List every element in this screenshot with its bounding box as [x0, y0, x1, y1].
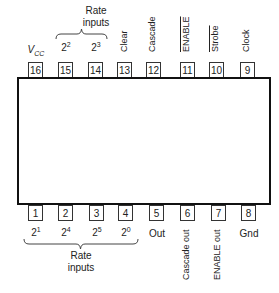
- pin9-label: Clock: [241, 29, 251, 52]
- pin-1: 1: [28, 205, 43, 221]
- pin-12: 12: [146, 62, 161, 78]
- pin-3: 3: [89, 205, 104, 221]
- pin-15: 15: [58, 62, 73, 78]
- pin-6: 6: [180, 205, 195, 221]
- top-rate-inputs-label: Rate inputs: [66, 5, 126, 29]
- pin-11: 11: [180, 62, 195, 78]
- pin10-label: Strobe: [210, 25, 220, 52]
- pin-2: 2: [58, 205, 73, 221]
- bottom-rate-inputs-label: Rate inputs: [51, 250, 111, 274]
- pin8-label: Gnd: [235, 228, 263, 240]
- ic-body: [17, 77, 271, 205]
- pin-7: 7: [211, 205, 226, 221]
- top-rate-label-line1: Rate: [66, 5, 126, 17]
- pin6-label: Cascade out: [181, 229, 191, 280]
- pin15-label: 22: [56, 42, 76, 54]
- pin-4: 4: [118, 205, 133, 221]
- pin-13: 13: [117, 62, 132, 78]
- pin7-label: ENABLE out: [212, 229, 222, 280]
- pin-5: 5: [149, 205, 164, 221]
- bottom-rate-brace: [23, 238, 139, 250]
- pin16-label: VCC: [24, 44, 48, 56]
- pin12-label: Cascade: [147, 16, 157, 52]
- pin14-label: 23: [86, 42, 106, 54]
- pin5-label: Out: [144, 228, 170, 240]
- pin-16: 16: [28, 62, 43, 78]
- pin-10: 10: [209, 62, 224, 78]
- pin-14: 14: [88, 62, 103, 78]
- pin-8: 8: [241, 205, 256, 221]
- top-rate-brace: [55, 28, 108, 40]
- bottom-rate-label-line1: Rate: [51, 250, 111, 262]
- pin11-label: ENABLE: [181, 16, 191, 52]
- pin-9: 9: [240, 62, 255, 78]
- pin13-label: Clear: [119, 30, 129, 52]
- bottom-rate-label-line2: inputs: [51, 262, 111, 274]
